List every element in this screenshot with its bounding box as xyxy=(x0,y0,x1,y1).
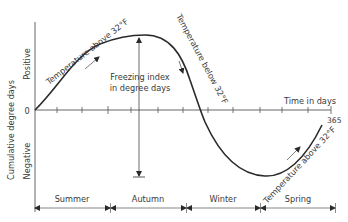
freezing-index-diagram: Cumulative degree days Positive Negative… xyxy=(0,0,348,222)
season-summer: Summer xyxy=(55,194,90,204)
season-brackets xyxy=(35,203,336,213)
season-spring: Spring xyxy=(285,194,311,204)
season-autumn: Autumn xyxy=(132,194,164,204)
y-axis-zero-label: 0 xyxy=(24,106,29,116)
x-axis-end-label: 365 xyxy=(327,116,342,125)
y-axis-label: Cumulative degree days xyxy=(6,80,16,180)
direction-arrow-rising xyxy=(85,57,99,69)
y-axis-negative-label: Negative xyxy=(22,143,32,180)
freezing-index-label-line1: Freezing index xyxy=(110,72,169,82)
x-axis-label: Time in days xyxy=(283,96,336,106)
freezing-index-label-line2: in degree days xyxy=(110,83,171,93)
annotation-temp-below-falling: Temperature below 32°F xyxy=(174,11,231,106)
y-axis-positive-label: Positive xyxy=(22,48,32,80)
season-winter: Winter xyxy=(210,194,238,204)
